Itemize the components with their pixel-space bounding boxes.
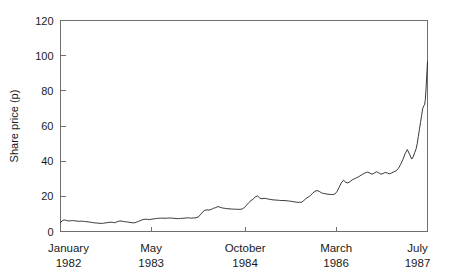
x-axis: January1982May1983October1984March1986Ju… <box>48 227 430 269</box>
share-price-series <box>61 62 428 224</box>
y-tick-label: 20 <box>41 190 53 202</box>
x-tick-label-year: 1987 <box>405 257 431 269</box>
y-axis-title: Share price (p) <box>8 90 20 163</box>
share-price-line-chart: 020406080100120 January1982May1983Octobe… <box>0 0 451 279</box>
y-tick-label: 100 <box>35 50 53 62</box>
x-tick-label-year: 1982 <box>56 257 82 269</box>
x-tick-label-year: 1983 <box>138 257 164 269</box>
chart-figure: 020406080100120 January1982May1983Octobe… <box>0 0 451 279</box>
x-tick-label-year: 1984 <box>232 257 258 269</box>
x-tick-label-year: 1986 <box>323 257 349 269</box>
y-tick-label: 40 <box>41 155 53 167</box>
x-tick-label-month: January <box>48 242 89 254</box>
y-tick-label: 0 <box>47 226 53 238</box>
x-tick-label-month: July <box>407 242 428 254</box>
y-tick-label: 60 <box>41 120 53 132</box>
plot-frame <box>61 21 428 232</box>
x-tick-label-month: May <box>140 242 162 254</box>
y-tick-label: 80 <box>41 85 53 97</box>
y-tick-label: 120 <box>35 15 53 27</box>
x-tick-label-month: March <box>320 242 352 254</box>
x-tick-label-month: October <box>225 242 266 254</box>
